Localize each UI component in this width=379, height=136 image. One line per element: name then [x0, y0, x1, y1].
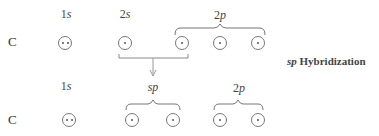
orbital-sp-1-after: [125, 113, 139, 127]
atom-label-after: C: [8, 112, 17, 128]
label-2p-before: 2p: [214, 8, 226, 23]
orbital-2p-1-after: [213, 113, 227, 127]
label-2s-before: 2s: [120, 7, 131, 22]
atom-label-before: C: [8, 34, 17, 50]
orbital-1s-before: [58, 36, 72, 50]
label-1s-before: 1s: [61, 7, 72, 22]
label-sp-after: sp: [148, 80, 159, 95]
label-2p-after: 2p: [233, 81, 245, 96]
orbital-2p-2-before: [213, 36, 227, 50]
orbital-2p-1-before: [175, 36, 189, 50]
bracket-lines: [0, 0, 379, 136]
orbital-2p-2-after: [251, 113, 265, 127]
hybridization-title: sp Hybridization: [287, 55, 366, 67]
orbital-2s-before: [118, 36, 132, 50]
orbital-1s-after: [62, 113, 76, 127]
orbital-2p-3-before: [251, 36, 265, 50]
label-1s-after: 1s: [61, 79, 72, 94]
orbital-sp-2-after: [166, 113, 180, 127]
